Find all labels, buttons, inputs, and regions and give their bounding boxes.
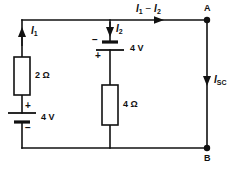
current-arrow-i2 [106, 22, 114, 37]
terminal-b-dot [204, 145, 210, 151]
label-current-i2: I2 [116, 24, 123, 34]
label-polarity-plus-left: + [25, 101, 31, 111]
label-current-isc: ISC [214, 75, 227, 85]
label-source-left-value: 4 V [41, 113, 55, 122]
label-terminal-b: B [204, 154, 211, 163]
label-terminal-a: A [204, 4, 211, 13]
label-polarity-plus-middle: + [95, 51, 101, 61]
label-current-i1: I1 [31, 26, 38, 36]
current-arrow-i1 [18, 27, 26, 46]
voltage-source-middle-symbol [96, 42, 124, 50]
terminal-a-dot [204, 17, 210, 23]
label-polarity-minus-middle: − [92, 35, 98, 45]
resistor-4ohm-body [102, 85, 118, 125]
circuit-diagram-canvas: I1 I2 I1 − I2 ISC 2 Ω 4 Ω 4 V 4 V + − − … [0, 0, 237, 169]
resistor-2ohm-body [14, 57, 30, 95]
voltage-source-left-symbol [8, 113, 36, 122]
label-resistor-4ohm: 4 Ω [123, 100, 138, 109]
current-arrow-i1-minus-i2 [154, 16, 164, 24]
label-source-middle-value: 4 V [130, 44, 144, 53]
current-arrow-isc [203, 76, 211, 86]
label-current-i1-minus-i2: I1 − I2 [136, 4, 161, 14]
label-resistor-2ohm: 2 Ω [35, 71, 50, 80]
label-polarity-minus-left: − [25, 123, 31, 133]
